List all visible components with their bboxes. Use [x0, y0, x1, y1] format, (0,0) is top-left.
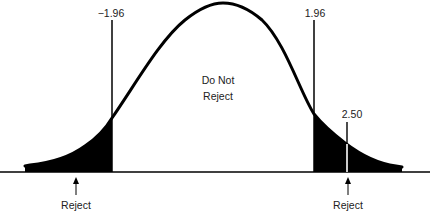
do-not-reject-label-line1: Do Not	[202, 74, 235, 86]
left-reject-label: Reject	[61, 199, 91, 211]
test-statistic-label: 2.50	[342, 108, 363, 120]
upper-critical-label: 1.96	[305, 7, 326, 19]
do-not-reject-label-line2: Reject	[203, 90, 233, 102]
right-reject-label: Reject	[333, 199, 363, 211]
left-reject-arrow-icon	[73, 177, 79, 195]
lower-critical-label: −1.96	[98, 7, 125, 19]
right-reject-arrow-icon	[345, 177, 351, 195]
normal-curve-figure: −1.96 1.96 2.50 Do Not Reject Reject Rej…	[0, 0, 430, 214]
hypothesis-test-diagram: −1.96 1.96 2.50 Do Not Reject Reject Rej…	[0, 0, 430, 214]
